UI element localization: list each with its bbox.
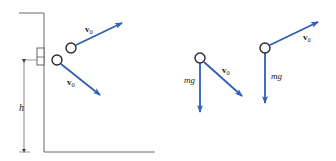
upper-ball-group: v0	[66, 23, 122, 53]
fbd-upward: mg v0	[260, 22, 318, 103]
fbd-downward-ball	[195, 53, 205, 63]
fbd-upward-velocity-label: v0	[303, 32, 311, 43]
fbd-downward: mg v0	[184, 53, 242, 112]
upper-velocity-label: v0	[85, 24, 93, 35]
projectile-diagram: h v0 v0 mg v0 mg v0	[0, 0, 336, 161]
height-label: h	[19, 102, 24, 113]
upper-ball	[66, 43, 76, 53]
fbd-downward-velocity-label: v0	[222, 65, 230, 76]
height-dimension: h	[19, 60, 37, 152]
fbd-downward-weight-label: mg	[184, 75, 195, 85]
upper-velocity-arrow	[76, 23, 122, 45]
fbd-upward-velocity-arrow	[270, 22, 318, 45]
fbd-upward-weight-label: mg	[271, 71, 282, 81]
fbd-upward-ball	[260, 43, 270, 53]
lower-ball	[52, 55, 62, 65]
launcher-block	[37, 48, 44, 65]
lower-velocity-label: v0	[67, 77, 75, 88]
lower-ball-group: v0	[52, 55, 100, 95]
